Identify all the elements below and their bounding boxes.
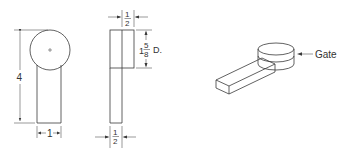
runner-rect xyxy=(37,65,61,123)
top-dim-num: 1 xyxy=(125,10,130,19)
boss-cylinder-side xyxy=(258,49,294,70)
height-dim-text: 4 xyxy=(17,72,23,83)
isometric-view: Gate xyxy=(216,43,337,94)
bottom-dim-num: 1 xyxy=(113,128,118,137)
boss-top-ellipse xyxy=(258,43,294,55)
drawing-canvas: 4 1 1 2 1 5 8 D. 1 xyxy=(0,0,349,153)
gate-arrow-icon xyxy=(297,52,302,55)
side-view: 1 2 1 5 8 D. 1 2 xyxy=(95,10,162,148)
front-view: 4 1 xyxy=(14,30,70,139)
diameter-num: 5 xyxy=(144,41,149,50)
bottom-dim-den: 2 xyxy=(113,137,118,146)
diameter-den: 8 xyxy=(144,50,149,59)
runner-side-rect xyxy=(110,30,122,123)
diameter-suffix: D. xyxy=(153,45,162,55)
gate-label: Gate xyxy=(315,49,337,60)
width-dim-text: 1 xyxy=(47,128,53,139)
runner-end-face xyxy=(216,80,229,94)
center-mark-icon xyxy=(48,48,52,52)
drawing-svg: 4 1 1 2 1 5 8 D. 1 xyxy=(0,0,349,153)
runner-top-face xyxy=(216,58,275,86)
top-dim-den: 2 xyxy=(125,19,130,28)
